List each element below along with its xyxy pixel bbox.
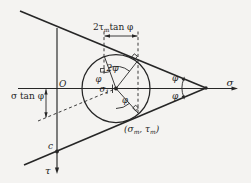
circle-center-label: σ1 [100, 84, 110, 95]
top-dimension-left-arrow-icon [105, 34, 111, 37]
mohr-coulomb-diagram: 2τmtan φ σ tan φ O σ τ c σ1 2φ φ φ φ φ (… [0, 0, 251, 183]
origin-label: O [59, 79, 67, 89]
left-dimension-down-arrow-icon [44, 112, 47, 117]
sigma-axis-label: σ [227, 77, 235, 88]
radius-upper-tangent [116, 62, 137, 89]
left-angle-label: φ [96, 74, 102, 84]
apex-angle-upper-label: φ [172, 73, 179, 83]
cohesion-point-dot [55, 150, 59, 154]
cohesion-label: c [48, 141, 53, 151]
apex-point-dot [204, 86, 207, 89]
top-dimension-right-arrow-icon [132, 34, 138, 37]
radius-angle-label: φ [122, 95, 128, 105]
apex-angle-lower-label: φ [172, 91, 179, 101]
left-dimension-up-arrow-icon [44, 89, 47, 94]
diagram-svg: 2τmtan φ σ tan φ O σ τ c σ1 2φ φ φ φ φ (… [0, 0, 251, 183]
lower-envelope-line [24, 88, 206, 165]
tau-axis-label: τ [45, 165, 51, 176]
tangent-point-label: (σm, τm) [124, 124, 160, 135]
tau-axis-arrow-icon [55, 168, 59, 175]
double-angle-label: 2φ [106, 63, 120, 73]
top-dimension-label: 2τmtan φ [93, 22, 133, 33]
left-dimension-label: σ tan φ [11, 91, 44, 101]
